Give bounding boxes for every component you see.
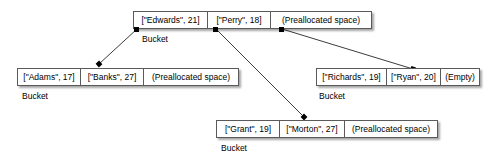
bucket-cell[interactable]: ["Edwards", 21] xyxy=(134,12,208,28)
edge-anchor-root-0 xyxy=(134,27,139,32)
bucket-cell[interactable]: (Preallocated space) xyxy=(144,69,238,85)
bucket-label-left: Bucket xyxy=(22,91,48,101)
bucket-cell[interactable]: (Empty) xyxy=(441,69,479,85)
bucket-label-bottom: Bucket xyxy=(221,143,247,153)
bucket-root[interactable]: ["Edwards", 21] ["Perry", 18] (Prealloca… xyxy=(133,11,372,29)
bucket-label-right: Bucket xyxy=(319,91,345,101)
bucket-left[interactable]: ["Adams", 17] ["Banks", 27] (Preallocate… xyxy=(17,68,239,86)
edge-root-to-left xyxy=(99,29,137,64)
bucket-bottom[interactable]: ["Grant", 19] ["Morton", 27] (Preallocat… xyxy=(216,120,438,138)
bucket-cell[interactable]: ["Ryan", 20] xyxy=(387,69,441,85)
bucket-cell[interactable]: ["Richards", 19] xyxy=(317,69,387,85)
bucket-cell[interactable]: (Preallocated space) xyxy=(345,121,437,137)
diagram-canvas: ["Edwards", 21] ["Perry", 18] (Prealloca… xyxy=(0,0,496,164)
bucket-cell[interactable]: (Preallocated space) xyxy=(271,12,371,28)
bucket-cell[interactable]: ["Perry", 18] xyxy=(208,12,271,28)
bucket-cell[interactable]: ["Grant", 19] xyxy=(217,121,280,137)
bucket-cell[interactable]: ["Morton", 27] xyxy=(280,121,345,137)
edge-anchor-root-1 xyxy=(213,27,218,32)
bucket-label-root: Bucket xyxy=(142,34,168,44)
edge-root-to-right xyxy=(282,29,413,69)
edge-anchor-root-2 xyxy=(279,27,284,32)
bucket-right[interactable]: ["Richards", 19] ["Ryan", 20] (Empty) xyxy=(316,68,480,86)
bucket-cell[interactable]: ["Adams", 17] xyxy=(18,69,81,85)
bucket-cell[interactable]: ["Banks", 27] xyxy=(81,69,144,85)
